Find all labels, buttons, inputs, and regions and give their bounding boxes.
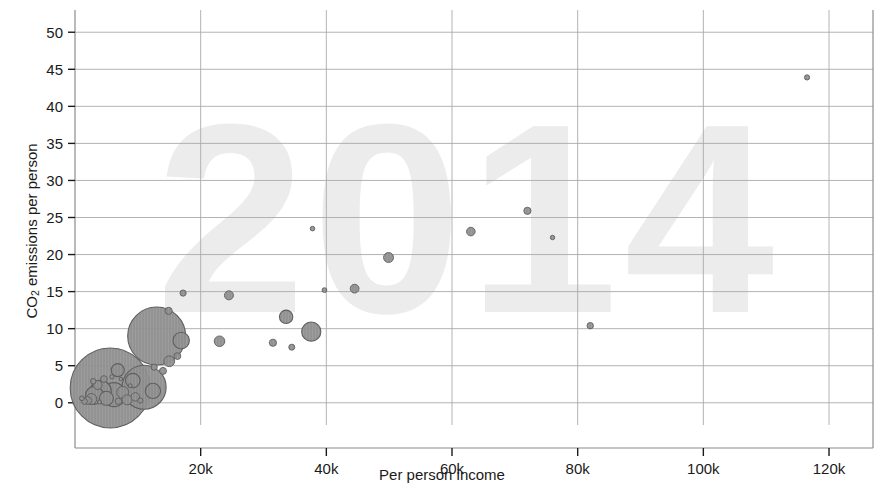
svg-text:0: 0 <box>55 394 63 411</box>
bubble-chart-figure: 2014 0510152025303540455020k40k60k80k100… <box>0 0 884 497</box>
year-watermark: 2014 <box>156 68 781 369</box>
svg-text:5: 5 <box>55 357 63 374</box>
svg-text:50: 50 <box>46 24 63 41</box>
y-axis-title-rest: emissions per person <box>23 143 40 290</box>
svg-text:45: 45 <box>46 61 63 78</box>
svg-text:40: 40 <box>46 98 63 115</box>
svg-text:2014: 2014 <box>156 68 781 369</box>
y-axis-title: CO2 emissions per person <box>23 111 41 351</box>
svg-text:20: 20 <box>46 246 63 263</box>
y-axis-title-subscript: 2 <box>29 290 41 296</box>
svg-text:25: 25 <box>46 209 63 226</box>
x-axis-title: Per person income <box>0 466 884 483</box>
scatter-plot-canvas: 2014 0510152025303540455020k40k60k80k100… <box>0 0 884 497</box>
svg-text:30: 30 <box>46 172 63 189</box>
y-axis-title-main: CO <box>23 296 40 319</box>
svg-text:10: 10 <box>46 320 63 337</box>
svg-text:35: 35 <box>46 135 63 152</box>
svg-text:15: 15 <box>46 283 63 300</box>
